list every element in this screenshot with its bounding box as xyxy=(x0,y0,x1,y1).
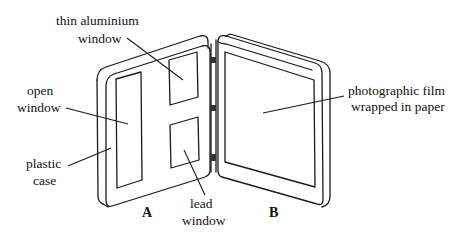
label-photographic-film-line1: photographic film xyxy=(348,83,446,98)
label-lead-window-line2: window xyxy=(182,213,226,228)
label-lead-window-line1: lead xyxy=(190,196,213,211)
label-thin-aluminium-line1: thin aluminium xyxy=(56,13,139,28)
leader-lead-window xyxy=(184,150,205,195)
label-open-window-line1: open xyxy=(27,83,53,98)
label-open-window-line2: window xyxy=(17,100,61,115)
panel-b-front-edge xyxy=(218,42,312,70)
panel-a xyxy=(97,36,210,207)
hinge-knuckle-top xyxy=(211,57,216,63)
panel-b xyxy=(218,34,330,207)
label-plastic-case-line1: plastic xyxy=(26,156,61,171)
panel-b-outer xyxy=(218,36,323,205)
hinge xyxy=(211,40,216,172)
panel-a-left-edge xyxy=(97,80,103,204)
panel-a-front-face xyxy=(106,46,210,207)
hinge-knuckle-middle xyxy=(211,105,216,111)
photographic-film-area xyxy=(225,52,315,187)
leader-photographic-film xyxy=(263,96,344,113)
open-window-cutout xyxy=(116,72,142,188)
lead-window-cutout xyxy=(170,117,199,168)
film-badge-diagram: thin aluminium window open window plasti… xyxy=(0,0,465,235)
panel-a-label: A xyxy=(142,205,153,220)
label-photographic-film-line2: wrapped in paper xyxy=(351,99,445,114)
aluminium-window-cutout xyxy=(169,52,198,105)
leader-plastic-case xyxy=(68,148,111,166)
label-plastic-case-line2: case xyxy=(33,173,56,188)
hinge-knuckle-bottom xyxy=(211,154,216,161)
label-thin-aluminium-line2: window xyxy=(78,31,122,46)
leader-lines xyxy=(66,38,344,195)
panel-b-label: B xyxy=(269,205,278,220)
